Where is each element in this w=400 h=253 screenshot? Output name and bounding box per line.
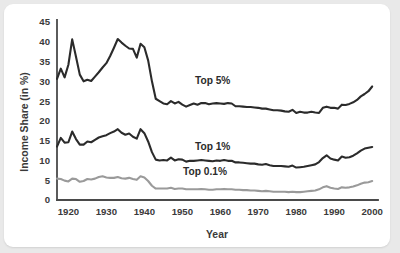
x-tick-label: 1940: [134, 206, 155, 217]
x-tick-label: 1960: [210, 206, 231, 217]
x-axis-tick-labels: 192019301940195019601970198019902000: [58, 206, 383, 217]
x-tick-label: 1950: [172, 206, 193, 217]
series-label-top-5: Top 5%: [195, 75, 230, 86]
x-tick-label: 1990: [324, 206, 345, 217]
y-tick-label: 45: [39, 16, 50, 27]
series-label-top-1: Top 1%: [195, 141, 230, 152]
y-tick-label: 5: [45, 175, 51, 186]
x-tick-label: 1920: [58, 206, 79, 217]
x-axis-title: Year: [206, 229, 228, 240]
y-tick-label: 25: [39, 96, 50, 107]
x-tick-label: 1980: [286, 206, 307, 217]
y-tick-label: 20: [39, 115, 50, 126]
y-axis-title: Income Share (in %): [19, 72, 30, 171]
chart-figure: Income Share (in %) 051015202530354045 1…: [4, 4, 390, 247]
series-label-top-0-1: Top 0.1%: [183, 166, 227, 177]
series-line-top-0-1: [57, 176, 372, 192]
x-tick-label: 1930: [96, 206, 117, 217]
x-tick-label: 1970: [248, 206, 269, 217]
x-tick-label: 2000: [362, 206, 383, 217]
chart-card: Income Share (in %) 051015202530354045 1…: [4, 4, 390, 247]
y-tick-label: 10: [39, 155, 50, 166]
income-share-line-chart: Income Share (in %) 051015202530354045 1…: [4, 4, 390, 247]
y-tick-label: 0: [45, 194, 50, 205]
y-tick-label: 40: [39, 36, 50, 47]
y-tick-label: 15: [39, 135, 50, 146]
y-axis-tick-labels: 051015202530354045: [39, 16, 50, 205]
y-tick-label: 35: [39, 56, 50, 67]
y-tick-label: 30: [39, 76, 50, 87]
